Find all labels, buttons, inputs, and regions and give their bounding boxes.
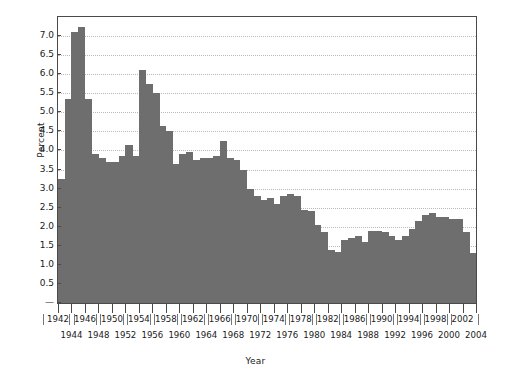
x-axis-tick-label: 2004 bbox=[459, 330, 493, 340]
y-axis-tick-label: 3.5 bbox=[20, 164, 54, 173]
x-label-separator bbox=[312, 314, 313, 325]
x-axis-tick-mark bbox=[220, 304, 221, 313]
y-axis-tick-label: 0.5 bbox=[20, 278, 54, 287]
x-label-separator bbox=[366, 314, 367, 325]
x-axis-tick-mark bbox=[301, 304, 302, 313]
x-axis-tick-mark bbox=[382, 304, 383, 313]
x-label-separator bbox=[424, 314, 425, 325]
x-label-separator bbox=[127, 314, 128, 325]
x-label-separator bbox=[316, 314, 317, 325]
x-axis-tick-mark bbox=[395, 304, 396, 313]
x-label-separator bbox=[235, 314, 236, 325]
y-axis-tick-label: 1.0 bbox=[20, 259, 54, 268]
x-axis-tick-mark bbox=[328, 304, 329, 313]
y-axis-tick-mark bbox=[57, 188, 61, 189]
x-axis-tick-mark bbox=[179, 304, 180, 313]
x-label-separator bbox=[69, 314, 70, 325]
gridline bbox=[58, 93, 476, 94]
x-axis-tick-mark bbox=[206, 304, 207, 313]
x-label-separator bbox=[478, 314, 479, 325]
x-axis-tick-mark bbox=[368, 304, 369, 313]
y-axis-tick-mark bbox=[57, 207, 61, 208]
x-label-separator bbox=[289, 314, 290, 325]
y-axis-tick-label: 6.0 bbox=[20, 69, 54, 78]
x-axis-tick-mark bbox=[449, 304, 450, 313]
y-axis-tick-mark bbox=[57, 302, 61, 303]
bar bbox=[469, 253, 476, 303]
x-axis-title: Year bbox=[0, 356, 511, 366]
x-axis-tick-mark bbox=[287, 304, 288, 313]
x-axis-tick-mark bbox=[409, 304, 410, 313]
x-label-separator bbox=[181, 314, 182, 325]
x-axis-tick-mark bbox=[436, 304, 437, 313]
x-label-separator bbox=[258, 314, 259, 325]
x-axis-tick-mark bbox=[112, 304, 113, 313]
x-axis-tick-mark bbox=[260, 304, 261, 313]
x-axis-tick-mark bbox=[341, 304, 342, 313]
x-label-separator bbox=[123, 314, 124, 325]
x-axis-tick-mark bbox=[125, 304, 126, 313]
bar-chart: Percent —0.51.01.52.02.53.03.54.04.55.05… bbox=[0, 0, 511, 382]
x-label-separator bbox=[177, 314, 178, 325]
y-axis-tick-mark bbox=[57, 169, 61, 170]
y-axis-tick-mark bbox=[57, 73, 61, 74]
x-label-separator bbox=[447, 314, 448, 325]
y-axis-tick-label: 2.0 bbox=[20, 221, 54, 230]
y-axis-tick-mark bbox=[57, 130, 61, 131]
y-axis-tick-label: 7.0 bbox=[20, 31, 54, 40]
y-axis-tick-label: 1.5 bbox=[20, 240, 54, 249]
x-label-separator bbox=[204, 314, 205, 325]
x-label-separator bbox=[100, 314, 101, 325]
y-axis-tick-mark bbox=[57, 283, 61, 284]
y-axis-tick-mark bbox=[57, 54, 61, 55]
y-axis-tick-label: 5.5 bbox=[20, 88, 54, 97]
x-axis-tick-mark bbox=[463, 304, 464, 313]
gridline bbox=[58, 150, 476, 151]
x-axis-tick-mark bbox=[139, 304, 140, 313]
gridline bbox=[58, 55, 476, 56]
x-axis-tick-mark bbox=[166, 304, 167, 313]
x-axis-tick-mark bbox=[233, 304, 234, 313]
x-axis-tick-mark bbox=[71, 304, 72, 313]
x-label-separator bbox=[154, 314, 155, 325]
x-axis-tick-mark bbox=[193, 304, 194, 313]
x-axis-tick-mark bbox=[274, 304, 275, 313]
x-label-separator bbox=[451, 314, 452, 325]
x-label-separator bbox=[339, 314, 340, 325]
y-axis-tick-mark bbox=[57, 264, 61, 265]
y-axis-tick-label: 6.5 bbox=[20, 50, 54, 59]
y-axis-tick-mark bbox=[57, 35, 61, 36]
x-label-separator bbox=[208, 314, 209, 325]
x-axis-tick-mark bbox=[98, 304, 99, 313]
x-axis-tick-mark bbox=[355, 304, 356, 313]
x-label-separator bbox=[231, 314, 232, 325]
x-label-separator bbox=[150, 314, 151, 325]
x-label-separator bbox=[74, 314, 75, 325]
y-axis-tick-label: 3.0 bbox=[20, 183, 54, 192]
x-label-separator bbox=[262, 314, 263, 325]
y-axis-tick-mark bbox=[57, 92, 61, 93]
y-axis-tick-mark bbox=[57, 245, 61, 246]
x-label-separator bbox=[370, 314, 371, 325]
gridline bbox=[58, 74, 476, 75]
x-axis-tick-mark bbox=[476, 304, 477, 313]
x-label-separator bbox=[343, 314, 344, 325]
y-axis-tick-label: 4.5 bbox=[20, 126, 54, 135]
y-axis-tick-mark bbox=[57, 111, 61, 112]
y-axis-tick-mark bbox=[57, 226, 61, 227]
x-label-separator bbox=[96, 314, 97, 325]
y-axis-tick-mark bbox=[57, 149, 61, 150]
gridline bbox=[58, 112, 476, 113]
y-axis-tick-labels: —0.51.01.52.02.53.03.54.04.55.05.56.06.5… bbox=[14, 16, 54, 304]
y-axis-tick-label: 4.0 bbox=[20, 145, 54, 154]
x-axis-tick-mark bbox=[85, 304, 86, 313]
y-axis-tick-label: 5.0 bbox=[20, 107, 54, 116]
x-axis-tick-mark bbox=[152, 304, 153, 313]
x-label-separator bbox=[285, 314, 286, 325]
x-axis-tick-mark bbox=[58, 304, 59, 313]
x-label-separator bbox=[397, 314, 398, 325]
gridline bbox=[58, 131, 476, 132]
x-label-separator bbox=[43, 314, 44, 325]
plot-area bbox=[57, 16, 477, 304]
y-axis-tick-label: 2.5 bbox=[20, 202, 54, 211]
